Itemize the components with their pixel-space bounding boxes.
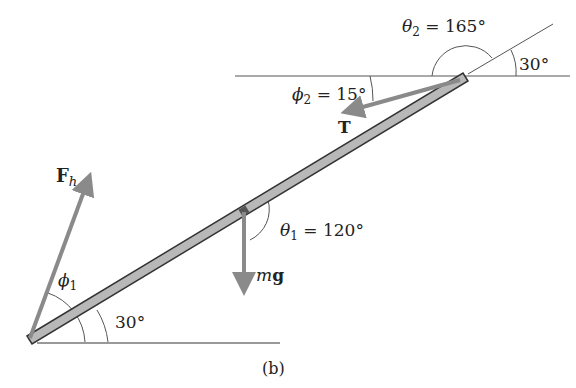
phi2-label: ϕ2 = 15° [292,84,366,107]
top-30-arc [511,50,516,76]
phi1-label: ϕ1 [58,270,77,293]
tension-label: T [338,117,351,137]
theta2-label: θ2 = 165° [402,16,486,39]
beam [27,73,468,344]
theta2-arc [432,46,492,76]
phi2-arc [370,76,373,101]
beam-30-arc-bottom [97,310,108,342]
hinge-force-label: Fh [56,165,77,189]
free-body-diagram: Fh ϕ1 30° θ1 = 120° mg θ2 = 165° 30° ϕ2 … [0,0,576,388]
weight-label: mg [256,265,284,285]
theta1-label: θ1 = 120° [280,220,364,243]
figure-caption: (b) [262,359,285,378]
beam-angle-label: 30° [115,312,145,332]
top-angle-label: 30° [519,54,549,74]
